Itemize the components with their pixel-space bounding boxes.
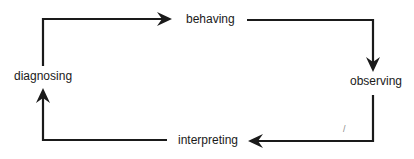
node-behaving: behaving [186,12,235,26]
stray-mark: / [343,124,346,134]
node-diagnosing: diagnosing [14,69,72,83]
arrow-observing-to-interpreting [256,95,373,141]
arrow-diagnosing-to-behaving [43,19,164,66]
arrow-behaving-to-observing [247,20,373,64]
arrow-interpreting-to-diagnosing [43,96,167,140]
node-interpreting: interpreting [178,133,238,147]
node-observing: observing [350,74,402,88]
